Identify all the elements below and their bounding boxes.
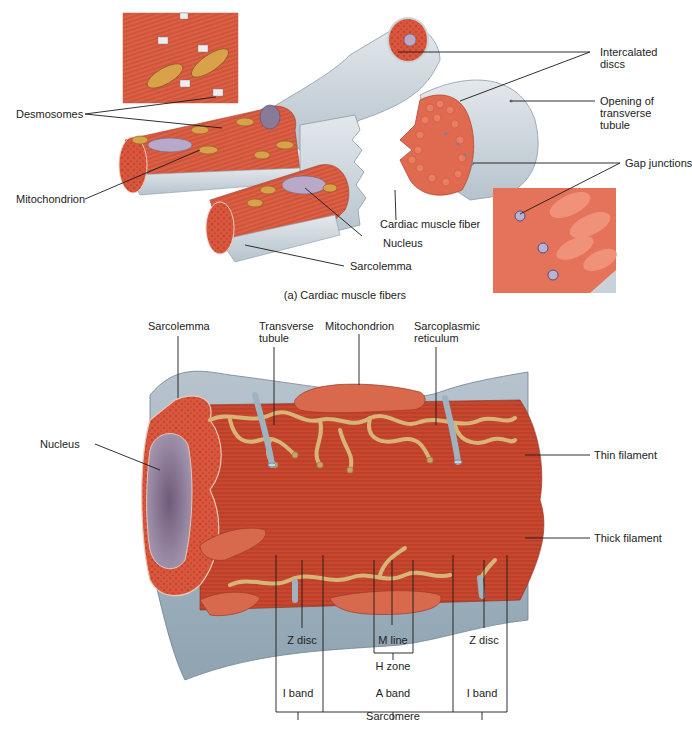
gap-junction-inset (493, 187, 620, 293)
label-sarcoplasmic-reticulum-2: reticulum (414, 332, 459, 344)
label-mitochondrion-b: Mitochondrion (325, 320, 394, 332)
panel-a-illustration (85, 13, 620, 293)
label-m-line: M line (378, 634, 407, 646)
nucleus-a1 (148, 138, 192, 152)
label-z-disc-right: Z disc (469, 634, 499, 646)
label-intercalated-discs-2: discs (600, 58, 626, 70)
label-sarcolemma-b: Sarcolemma (148, 320, 211, 332)
label-mitochondrion-a: Mitochondrion (16, 193, 85, 205)
desmosome-inset (123, 13, 238, 103)
nucleus-a2 (282, 176, 326, 194)
label-gap-junctions: Gap junctions (625, 157, 692, 169)
caption-panel-a: (a) Cardiac muscle fibers (284, 289, 407, 301)
label-cardiac-muscle-fiber: Cardiac muscle fiber (380, 218, 481, 230)
label-opening-t-tubule-2: transverse (600, 107, 651, 119)
label-transverse-tubule-2: tubule (259, 332, 289, 344)
label-intercalated-discs-1: Intercalated (600, 46, 657, 58)
label-i-band-right: I band (467, 687, 498, 699)
label-nucleus-b: Nucleus (40, 438, 80, 450)
label-i-band-left: I band (283, 687, 314, 699)
label-z-disc-left: Z disc (287, 634, 317, 646)
label-sarcoplasmic-reticulum-1: Sarcoplasmic (414, 320, 481, 332)
label-sarcomere: Sarcomere (366, 710, 420, 722)
nucleus-b (147, 434, 192, 569)
label-thick-filament: Thick filament (594, 532, 662, 544)
label-opening-t-tubule-1: Opening of (600, 95, 655, 107)
mitochondrion-b-top (294, 384, 425, 413)
label-h-zone: H zone (376, 660, 411, 672)
label-transverse-tubule-1: Transverse (259, 320, 314, 332)
label-a-band: A band (376, 687, 410, 699)
label-opening-t-tubule-3: tubule (600, 119, 630, 131)
cardiac-muscle-figure: Desmosomes Mitochondrion Intercalated di… (0, 0, 692, 733)
label-nucleus-a: Nucleus (383, 237, 423, 249)
label-sarcolemma-a: Sarcolemma (350, 260, 413, 272)
intercalated-disc-face (400, 95, 474, 195)
label-desmosomes: Desmosomes (16, 108, 84, 120)
panel-b-illustration (95, 334, 590, 733)
label-thin-filament: Thin filament (594, 449, 657, 461)
